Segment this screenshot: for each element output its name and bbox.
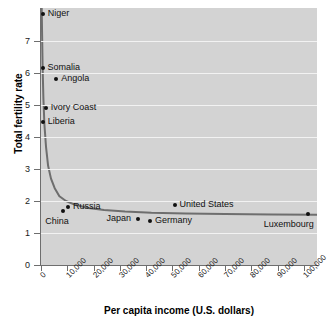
gridline [41, 137, 317, 138]
y-axis-tick-label: 3 [16, 165, 30, 174]
y-axis-tick-label: 4 [16, 133, 30, 142]
y-axis-tick-label: 7 [16, 37, 30, 46]
gridline [41, 169, 317, 170]
data-point-label: United States [180, 200, 234, 209]
data-point-label: Somalia [48, 63, 81, 72]
data-point-label: Luxembourg [264, 220, 314, 229]
y-axis-line [40, 8, 41, 266]
data-point-label: Germany [155, 216, 192, 225]
data-point-label: Ivory Coast [51, 103, 97, 112]
data-point-label: Russia [73, 202, 101, 211]
data-point-label: Japan [107, 214, 132, 223]
data-point [41, 120, 45, 124]
y-axis-tick [34, 73, 40, 74]
data-point [148, 219, 152, 223]
y-axis-tick [34, 41, 40, 42]
data-point-label: China [45, 217, 69, 226]
y-axis-tick-label: 1 [16, 229, 30, 238]
scatter-chart: Total fertility rate Per capita income (… [0, 0, 334, 323]
gridline [41, 233, 317, 234]
data-point [44, 106, 48, 110]
y-axis-tick-label: 5 [16, 101, 30, 110]
x-axis-tick-label: 0 [39, 271, 48, 280]
y-axis-tick [34, 137, 40, 138]
y-axis-tick-label: 6 [16, 69, 30, 78]
y-axis-tick [34, 105, 40, 106]
data-point [173, 203, 177, 207]
data-point [41, 12, 45, 16]
y-axis-tick [34, 169, 40, 170]
data-point [41, 66, 45, 70]
gridline [41, 41, 317, 42]
data-point-label: Niger [48, 9, 70, 18]
data-point [306, 212, 310, 216]
y-axis-title: Total fertility rate [13, 44, 24, 184]
data-point-label: Angola [61, 74, 89, 83]
y-axis-tick [34, 233, 40, 234]
y-axis-tick-label: 2 [16, 197, 30, 206]
data-point [136, 217, 140, 221]
y-axis-tick-label: 0 [16, 261, 30, 270]
data-point-label: Liberia [48, 117, 75, 126]
y-axis-tick [34, 201, 40, 202]
y-axis-tick [34, 265, 40, 266]
x-axis-title: Per capita income (U.S. dollars) [41, 305, 317, 316]
